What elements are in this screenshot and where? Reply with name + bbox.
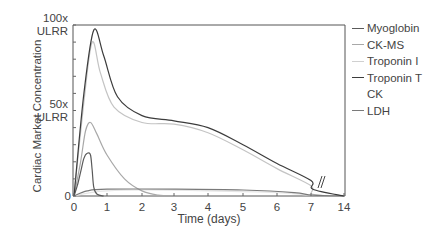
legend-item-ck-ms: CK-MS	[352, 37, 430, 54]
legend-label: CK-MS	[367, 39, 404, 51]
legend-item-ck: CK	[352, 86, 430, 103]
legend-swatch	[352, 61, 364, 62]
axis-layer: 100xULRR50xULRR00123456714	[37, 12, 351, 213]
y-tick-label: ULRR	[37, 25, 68, 37]
legend-label: CK	[367, 88, 383, 100]
legend-item-troponin-t: Troponin T	[352, 70, 430, 87]
x-tick-label: 2	[139, 201, 145, 213]
x-tick-label: 5	[240, 201, 246, 213]
legend-swatch	[352, 77, 364, 78]
x-tick-label: 7	[308, 201, 314, 213]
series-line-troponin-i	[74, 41, 344, 196]
x-tick-label: 6	[274, 201, 280, 213]
legend-swatch	[352, 44, 364, 45]
y-axis-label: Cardiac Market Concentration	[31, 40, 43, 193]
series-line-ck	[74, 190, 344, 196]
x-axis-label: Time (days)	[178, 212, 241, 226]
x-tick-label: 14	[338, 201, 351, 213]
legend-label: LDH	[367, 105, 390, 117]
legend-label: Troponin T	[367, 72, 422, 84]
legend-item-troponin-i: Troponin I	[352, 53, 430, 70]
legend-item-ldh: LDH	[352, 103, 430, 120]
legend-swatch	[352, 94, 364, 95]
legend-label: Myoglobin	[367, 22, 419, 34]
y-tick-label: 50x	[49, 98, 68, 110]
series-layer	[74, 29, 344, 196]
x-tick-label: 1	[104, 201, 110, 213]
x-tick-label: 0	[71, 201, 77, 213]
cardiac-marker-chart: 100xULRR50xULRR00123456714 Time (days) C…	[0, 0, 430, 238]
chart-legend: MyoglobinCK-MSTroponin ITroponin TCKLDH	[352, 20, 430, 119]
legend-swatch	[352, 28, 364, 29]
legend-item-myoglobin: Myoglobin	[352, 20, 430, 37]
y-tick-label: 100x	[43, 12, 68, 24]
x-tick-label: 3	[171, 201, 177, 213]
plot-frame	[73, 25, 345, 196]
series-line-troponin-t	[74, 29, 344, 196]
axis-break-marker	[318, 176, 325, 188]
legend-swatch	[352, 110, 364, 111]
legend-label: Troponin I	[367, 55, 418, 67]
series-line-ck-ms	[74, 122, 174, 196]
